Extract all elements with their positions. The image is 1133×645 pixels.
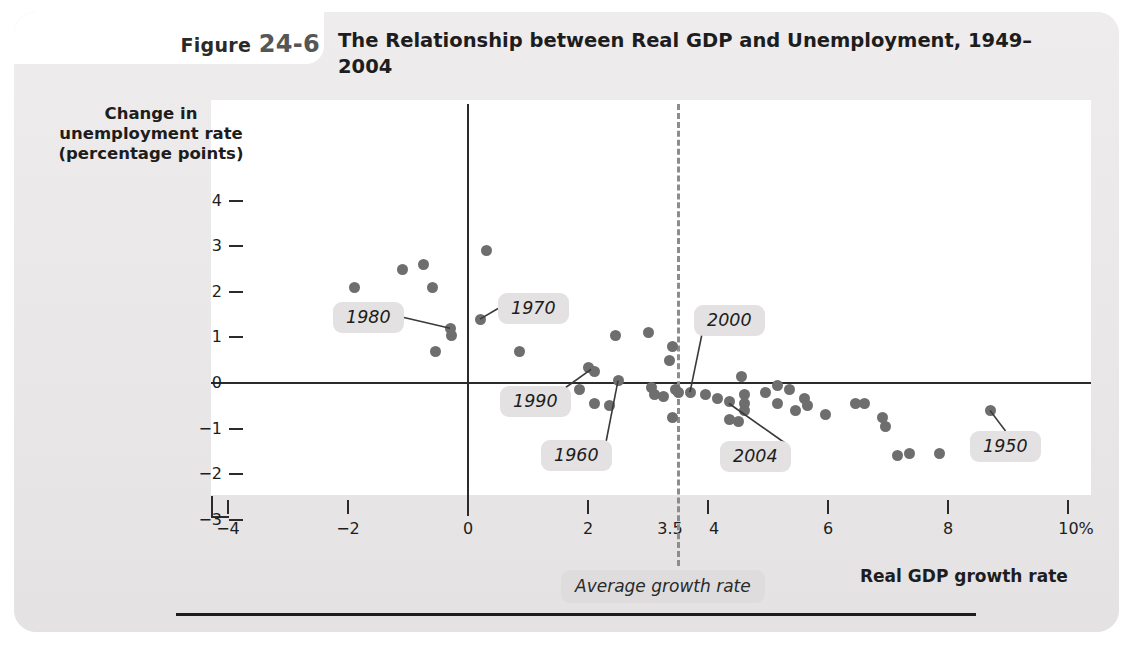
scatter-point xyxy=(430,346,441,357)
scatter-point xyxy=(589,398,600,409)
average-growth-rate-line xyxy=(677,104,680,566)
y-tick-mark xyxy=(229,291,243,293)
annotation-1990: 1990 xyxy=(500,386,571,417)
x-tick-label: 10% xyxy=(1046,519,1106,538)
scatter-point xyxy=(859,398,870,409)
figure-page: Figure 24-6 The Relationship between Rea… xyxy=(0,0,1133,645)
annotation-1980: 1980 xyxy=(333,302,404,333)
y-tick-label: 2 xyxy=(182,282,222,301)
scatter-point xyxy=(739,405,750,416)
scatter-point xyxy=(397,264,408,275)
scatter-point xyxy=(802,400,813,411)
x-tick-mark xyxy=(1067,500,1069,514)
y-tick-mark xyxy=(229,200,243,202)
y-tick-label: 4 xyxy=(182,191,222,210)
scatter-point xyxy=(613,375,624,386)
x-tick-label: 2 xyxy=(558,519,618,538)
y-tick-label: 3 xyxy=(182,236,222,255)
y-axis-line xyxy=(467,104,469,516)
x-tick-mark xyxy=(347,500,349,514)
scatter-point xyxy=(724,396,735,407)
scatter-point xyxy=(667,412,678,423)
x-tick-mark xyxy=(827,500,829,514)
scatter-point xyxy=(733,416,744,427)
annotation-2000: 2000 xyxy=(694,305,765,336)
scatter-point xyxy=(700,389,711,400)
figure-number-label: Figure 24-6 xyxy=(140,30,320,58)
y-axis-label: Change in unemployment rate (percentage … xyxy=(56,104,246,164)
y-tick-mark xyxy=(229,473,243,475)
plot-area xyxy=(211,100,1091,495)
scatter-point xyxy=(475,314,486,325)
scatter-point xyxy=(658,391,669,402)
scatter-point xyxy=(481,245,492,256)
scatter-point xyxy=(643,327,654,338)
scatter-point xyxy=(892,450,903,461)
scatter-point xyxy=(427,282,438,293)
y-tick-mark xyxy=(229,428,243,430)
scatter-point xyxy=(820,409,831,420)
x-tick-label: −4 xyxy=(198,519,258,538)
x-tick-label: 0 xyxy=(438,519,498,538)
scatter-point xyxy=(736,371,747,382)
scatter-point xyxy=(514,346,525,357)
scatter-point xyxy=(673,387,684,398)
annotation-2004: 2004 xyxy=(720,441,791,472)
x-tick-mark xyxy=(947,500,949,514)
annotation-1950: 1950 xyxy=(970,431,1041,462)
y-tick-mark xyxy=(229,382,243,384)
y-tick-mark xyxy=(229,336,243,338)
scatter-point xyxy=(349,282,360,293)
scatter-point xyxy=(904,448,915,459)
x-tick-label: 4 xyxy=(684,519,744,538)
scatter-point xyxy=(934,448,945,459)
scatter-point xyxy=(712,393,723,404)
scatter-point xyxy=(784,384,795,395)
scatter-point xyxy=(760,387,771,398)
scatter-point xyxy=(772,398,783,409)
figure-number: 24-6 xyxy=(259,30,320,58)
scatter-point xyxy=(446,330,457,341)
y-tick-label: 0 xyxy=(182,373,222,392)
scatter-point xyxy=(772,380,783,391)
y-tick-mark xyxy=(229,245,243,247)
scatter-point xyxy=(610,330,621,341)
x-tick-mark xyxy=(707,500,709,514)
x-tick-mark xyxy=(587,500,589,514)
x-tick-mark xyxy=(467,500,469,514)
scatter-point xyxy=(418,259,429,270)
scatter-point xyxy=(985,405,996,416)
x-axis-label: Real GDP growth rate xyxy=(860,566,1068,586)
figure-title: The Relationship between Real GDP and Un… xyxy=(338,28,1038,79)
scatter-point xyxy=(664,355,675,366)
x-tick-label: 6 xyxy=(798,519,858,538)
scatter-point xyxy=(685,387,696,398)
x-tick-label: −2 xyxy=(318,519,378,538)
scatter-point xyxy=(790,405,801,416)
x-tick-label: 8 xyxy=(918,519,978,538)
average-growth-rate-label: Average growth rate xyxy=(561,570,765,603)
scatter-point xyxy=(589,366,600,377)
y-tick-label: −1 xyxy=(182,419,222,438)
annotation-1960: 1960 xyxy=(541,440,612,471)
figure-word: Figure xyxy=(180,34,251,56)
y-tick-label: 1 xyxy=(182,327,222,346)
scatter-point xyxy=(880,421,891,432)
annotation-1970: 1970 xyxy=(498,293,569,324)
bottom-rule xyxy=(176,613,976,616)
x-tick-mark xyxy=(227,500,229,514)
y-tick-label: −2 xyxy=(182,464,222,483)
scatter-point xyxy=(604,400,615,411)
scatter-point xyxy=(667,341,678,352)
scatter-point xyxy=(574,384,585,395)
